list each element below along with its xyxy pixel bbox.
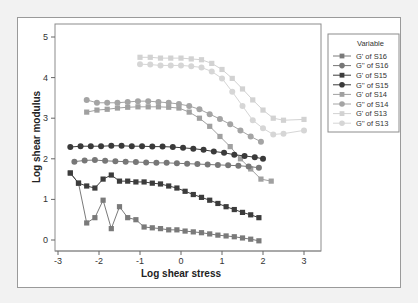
x-tick-label: -1 <box>136 256 144 266</box>
legend-title: Variable <box>357 39 384 48</box>
legend-label: G' of S16 <box>356 52 387 61</box>
legend-label: G' of S15 <box>356 71 387 80</box>
y-tick-label: 0 <box>43 235 48 245</box>
x-tick-label: -3 <box>54 256 62 266</box>
series-layer <box>67 55 307 244</box>
x-tick-label: -2 <box>95 256 103 266</box>
series-g-of-s14 <box>84 97 264 145</box>
y-tick-label: 2 <box>43 154 48 164</box>
legend-label: G'' of S13 <box>356 119 388 128</box>
y-tick-label: 5 <box>43 32 48 42</box>
y-tick-label: 4 <box>43 73 48 83</box>
legend: Variable G' of S16G'' of S16G' of S15G''… <box>328 34 399 132</box>
y-tick-label: 1 <box>43 194 48 204</box>
legend-label: G'' of S16 <box>356 61 388 70</box>
series-g-of-s16 <box>68 170 262 243</box>
chart-canvas: -3-2-10123 012345 Log shear stress Log s… <box>0 0 418 303</box>
series-g-of-s16 <box>71 157 262 171</box>
legend-label: G' of S14 <box>356 90 387 99</box>
x-tick-label: 2 <box>260 256 265 266</box>
x-axis-title: Log shear stress <box>141 268 221 279</box>
x-axis: -3-2-10123 <box>54 251 321 266</box>
series-g-of-s13 <box>137 61 307 137</box>
x-tick-label: 0 <box>178 256 183 266</box>
legend-label: G'' of S15 <box>356 81 388 90</box>
legend-label: G' of S13 <box>356 109 387 118</box>
legend-label: G'' of S14 <box>356 100 388 109</box>
y-tick-label: 3 <box>43 113 48 123</box>
x-tick-label: 3 <box>301 256 306 266</box>
y-axis-title: Log shear modulus <box>31 90 42 183</box>
y-axis: 012345 <box>43 32 55 245</box>
x-tick-label: 1 <box>219 256 224 266</box>
